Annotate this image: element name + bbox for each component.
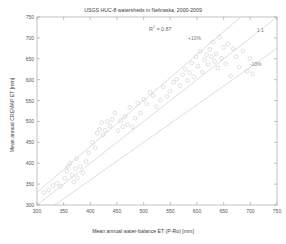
y-tick-label: 650 — [16, 56, 34, 62]
y-tick-label: 450 — [16, 139, 34, 145]
y-tick-label: 350 — [16, 181, 34, 187]
x-tick-label: 750 — [267, 208, 286, 214]
y-tick-label: 500 — [16, 118, 34, 124]
x-tick-label: 450 — [107, 208, 127, 214]
x-tick-label: 600 — [187, 208, 207, 214]
y-tick-label: 600 — [16, 77, 34, 83]
x-tick-label: 700 — [240, 208, 260, 214]
chart-figure: USGS HUC-8 watersheds in Nebraska, 2000-… — [0, 0, 286, 244]
x-tick-label: 650 — [214, 208, 234, 214]
y-tick-label: 300 — [16, 202, 34, 208]
annotation-plus-ten-percent: +10% — [188, 35, 201, 41]
x-tick-label: 300 — [27, 208, 47, 214]
x-tick-label: 550 — [160, 208, 180, 214]
annotation-one-to-one: 1:1 — [257, 27, 264, 33]
y-tick-label: 750 — [16, 14, 34, 20]
y-axis-title: Mean annual CREMAP ET [mm] — [9, 50, 15, 180]
x-tick-label: 350 — [54, 208, 74, 214]
x-tick-label: 400 — [80, 208, 100, 214]
y-tick-label: 400 — [16, 160, 34, 166]
annotation-minus-ten-percent: -10% — [250, 61, 262, 67]
annotation-r-squared: R2 = 0.87 — [149, 25, 172, 32]
x-tick-label: 500 — [134, 208, 154, 214]
y-tick-label: 700 — [16, 35, 34, 41]
x-axis-title: Mean annual water-balance ET (P-Ro) [mm] — [0, 228, 286, 234]
y-tick-label: 550 — [16, 98, 34, 104]
